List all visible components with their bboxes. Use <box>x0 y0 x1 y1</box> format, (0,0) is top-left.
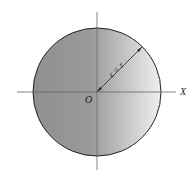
x-axis-label: X <box>179 86 187 97</box>
origin-label: O <box>85 94 92 105</box>
diagram-canvas: ε = r O X <box>0 0 195 177</box>
